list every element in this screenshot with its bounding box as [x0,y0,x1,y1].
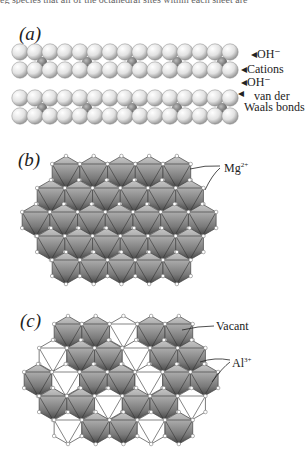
vdw-label-line2: Waals bonds [244,102,305,113]
oh-top-label: ◂OH⁻ [251,49,281,60]
oh-bottom-label: ◂OH⁻ [241,77,271,88]
vacant-label: Vacant [216,321,249,332]
cations-label: ◂Cations [241,64,284,75]
panel-b-label: (b) [18,149,40,171]
mg-label: Mg2+ [224,160,248,174]
vdw-arrow-icon: ◂ [238,88,244,99]
al-label: Al3+ [232,355,251,369]
panel-c-label: (c) [20,310,41,332]
